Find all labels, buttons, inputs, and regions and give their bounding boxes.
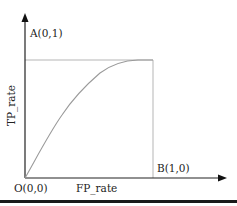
y-axis-arrow-icon <box>22 13 29 22</box>
point-a-label: A(0,1) <box>29 27 62 39</box>
roc-curve <box>25 60 153 178</box>
origin-label: O(0,0) <box>14 182 48 194</box>
x-axis-label: FP_rate <box>76 182 117 195</box>
point-b-label: B(1,0) <box>157 162 190 174</box>
x-axis-arrow-icon <box>218 175 227 182</box>
roc-diagram: A(0,1) B(1,0) O(0,0) FP_rate TP_rate <box>0 0 237 206</box>
bottom-rule <box>0 200 237 203</box>
y-axis-label: TP_rate <box>5 85 18 126</box>
